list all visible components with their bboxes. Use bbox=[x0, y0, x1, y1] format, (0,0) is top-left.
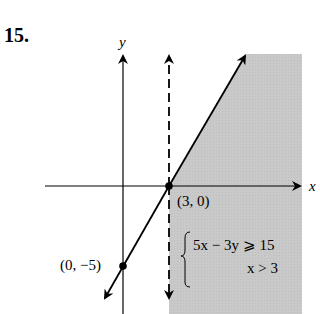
point-3-0 bbox=[165, 182, 173, 190]
solution-region bbox=[169, 54, 302, 314]
point-label-3-0: (3, 0) bbox=[177, 193, 210, 210]
point-label-0-neg5: (0, −5) bbox=[60, 257, 101, 274]
inequality-graph: y x (3, 0) (0, −5) 5x − 3y ⩾ 15 x > 3 bbox=[0, 0, 320, 314]
point-0-neg5 bbox=[119, 262, 127, 270]
y-axis-label: y bbox=[117, 34, 126, 50]
inequality-2: x > 3 bbox=[247, 260, 278, 276]
x-axis-label: x bbox=[308, 178, 316, 194]
solid-boundary-line-lower bbox=[105, 186, 169, 298]
inequality-1: 5x − 3y ⩾ 15 bbox=[193, 237, 274, 253]
